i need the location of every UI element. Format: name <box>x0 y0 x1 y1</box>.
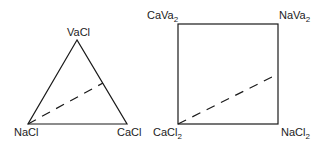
reciprocal-square <box>178 24 278 124</box>
label-cacl2: CaCl2 <box>153 127 182 138</box>
label-nacl: NaCl <box>14 127 38 138</box>
ternary-triangle <box>28 40 127 124</box>
label-vacl: VaCl <box>67 27 90 38</box>
label-cava2: CaVa2 <box>147 10 178 21</box>
label-nacl2: NaCl2 <box>281 127 310 138</box>
diagram-canvas <box>0 0 325 146</box>
square-dashed-line <box>178 74 278 124</box>
label-cacl: CaCl <box>117 127 141 138</box>
triangle-dashed-line <box>28 83 103 124</box>
label-nava2: NaVa2 <box>279 10 310 21</box>
